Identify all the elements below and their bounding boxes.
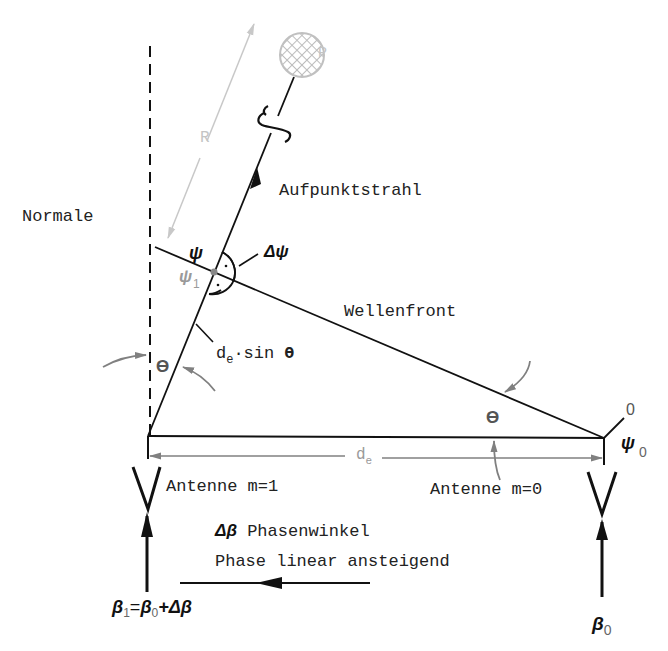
break-symbol-icon: [258, 113, 290, 142]
path-diff-sin: ·sin: [233, 344, 284, 363]
arc-bottom: [209, 282, 233, 294]
label-psi1: ψ: [179, 267, 192, 286]
delta-beta-symbol: Δβ: [214, 521, 237, 540]
theta-arrow-wavefront: [505, 361, 530, 392]
path-diff-d: d: [216, 344, 226, 363]
antenna-0-icon: [588, 472, 616, 514]
antenna-1-icon: [133, 467, 160, 509]
label-path-diff: de·sin ϴ: [216, 344, 294, 367]
spacing-sub: e: [366, 455, 373, 467]
label-zero: 0: [626, 401, 635, 418]
diagram-canvas: Normale Aufpunktstrahl Wellenfront P R ψ…: [0, 0, 668, 651]
label-antenna-0: Antenne m=0: [430, 480, 542, 499]
plus-delta-beta: +Δβ: [158, 597, 192, 617]
label-phase-angle: Δβ Phasenwinkel: [214, 521, 370, 541]
equals-sign: =: [130, 597, 141, 617]
label-theta-left: ϴ: [156, 357, 169, 376]
label-psi0: ψ: [621, 433, 635, 453]
label-spacing: de: [356, 446, 372, 467]
path-diff-leader: [196, 324, 213, 342]
beta1-symbol: β: [111, 597, 123, 617]
ray-line-lower: [148, 133, 271, 436]
label-ray: Aufpunktstrahl: [279, 181, 422, 200]
dot-mark: [225, 265, 228, 268]
label-theta-right: ϴ: [486, 408, 499, 427]
beta0-symbol-in-eq: β: [139, 597, 151, 617]
label-delta-psi: Δψ: [263, 242, 289, 261]
beta0-arrowhead-icon: [596, 519, 608, 540]
label-beta0: β0: [591, 613, 612, 638]
spacing-d: d: [356, 446, 366, 464]
phase-direction-arrowhead-icon: [256, 577, 282, 589]
ray-line-upper: [278, 77, 294, 116]
label-phase-linear: Phase linear ansteigend: [215, 552, 450, 571]
break-symbol-part: [264, 106, 268, 115]
theta-arrow-right: [183, 367, 215, 391]
label-psi1-sub: 1: [193, 277, 200, 291]
label-antenna-1: Antenne m=1: [166, 477, 278, 496]
beta0-symbol: β: [591, 613, 604, 634]
label-point-p: P: [318, 45, 327, 62]
path-diff-sub: e: [226, 353, 233, 367]
beta1-arrowhead-icon: [141, 512, 153, 537]
theta-arrow-left: [103, 355, 146, 367]
label-normal: Normale: [22, 207, 93, 226]
label-psi: ψ: [189, 243, 203, 263]
distance-r-arrow: [207, 24, 254, 141]
label-wavefront: Wellenfront: [344, 302, 456, 321]
label-beta1-equation: β1=β0+Δβ: [111, 597, 192, 620]
baseline: [148, 436, 604, 438]
distance-r-arrow-lower: [168, 158, 200, 238]
dot-mark: [217, 284, 220, 287]
label-psi0-sub: 0: [639, 444, 647, 460]
antenna0-leader-arrow: [494, 441, 500, 480]
phase-angle-text: Phasenwinkel: [237, 522, 370, 541]
beta0-sub: 0: [604, 622, 612, 638]
wavefront-line: [155, 247, 604, 438]
delta-psi-leader: [239, 254, 258, 266]
path-diff-theta: ϴ: [284, 345, 294, 363]
intersection-dot: [211, 269, 218, 276]
label-distance-r: R: [200, 129, 210, 147]
